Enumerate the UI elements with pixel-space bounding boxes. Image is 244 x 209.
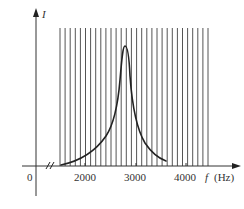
resonance-curve-figure: I 0 2000 3000 4000 f (Hz) bbox=[0, 0, 244, 209]
x-axis-arrow-icon bbox=[232, 163, 241, 169]
x-tick-label-2000: 2000 bbox=[74, 171, 97, 183]
y-axis-label: I bbox=[41, 8, 47, 20]
resonance-curve bbox=[61, 46, 166, 165]
x-axis-label-unit: (Hz) bbox=[214, 171, 234, 184]
x-tick-label-4000: 4000 bbox=[174, 171, 197, 183]
y-axis-arrow-icon bbox=[33, 8, 39, 17]
x-axis-label-var: f bbox=[205, 171, 210, 183]
vertical-hatch-lines bbox=[60, 28, 208, 166]
x-tick-label-3000: 3000 bbox=[124, 171, 147, 183]
origin-label: 0 bbox=[27, 171, 33, 183]
